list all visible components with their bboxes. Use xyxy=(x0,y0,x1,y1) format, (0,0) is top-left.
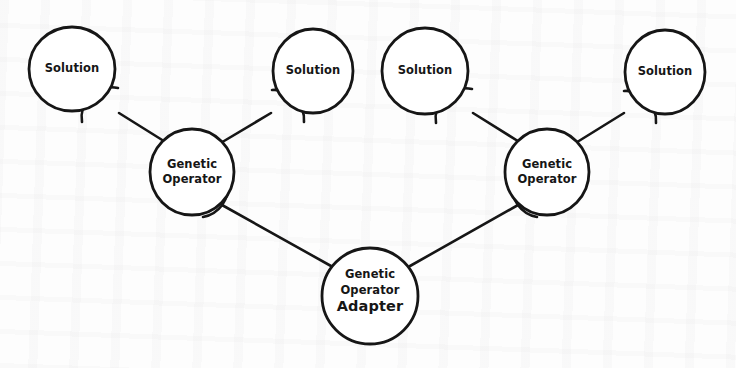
connector-line-operator-left-to-solution-2 xyxy=(219,113,271,144)
node-solution-2[interactable] xyxy=(273,29,353,113)
connector-line-operator-right-to-solution-4 xyxy=(574,113,624,144)
diagram-canvas: Solution Solution Solution Solution Gene… xyxy=(0,0,736,368)
connector-line-adapter-to-operator-left xyxy=(222,205,331,266)
connector-line-operator-left-to-solution-1 xyxy=(119,113,167,143)
diagram-svg xyxy=(0,0,736,368)
connector-line-adapter-to-operator-right xyxy=(410,205,518,266)
node-circles xyxy=(29,27,705,344)
node-genetic-operator-right[interactable] xyxy=(505,129,589,215)
node-solution-1[interactable] xyxy=(29,27,115,111)
node-solution-3[interactable] xyxy=(382,28,468,114)
node-solution-4[interactable] xyxy=(625,30,705,114)
connector-line-operator-right-to-solution-3 xyxy=(473,113,521,143)
node-genetic-operator-adapter[interactable] xyxy=(322,248,418,344)
node-genetic-operator-left[interactable] xyxy=(150,129,234,215)
